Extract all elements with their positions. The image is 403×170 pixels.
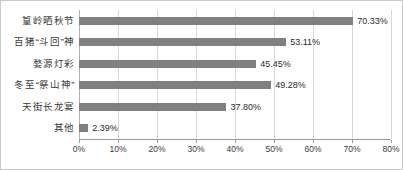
x-tick-mark [79,140,80,143]
x-tick-mark [352,140,353,143]
value-label: 45.45% [260,59,291,68]
value-label: 49.28% [275,81,306,90]
x-tick-label: 60% [304,145,321,154]
category-label: 百猪“斗回”神 [14,38,75,48]
bar [79,38,286,46]
category-label: 冬至“祭山神” [14,81,75,91]
bar-row: 天街长龙宴37.80% [79,96,391,118]
x-tick-label: 40% [226,145,243,154]
bar [79,103,226,111]
category-label: 天街长龙宴 [22,102,75,112]
x-tick-mark [235,140,236,143]
bar-chart: 篁岭晒秋节70.33%百猪“斗回”神53.11%婺源灯彩45.45%冬至“祭山神… [0,0,403,170]
bar-row: 其他2.39% [79,118,391,140]
x-axis: 0%10%20%30%40%50%60%70%80% [79,140,391,160]
x-tick-mark [196,140,197,143]
x-tick-label: 30% [187,145,204,154]
bar-row: 百猪“斗回”神53.11% [79,32,391,54]
x-tick-mark [157,140,158,143]
bar-row: 婺源灯彩45.45% [79,53,391,75]
bar-row: 冬至“祭山神”49.28% [79,75,391,97]
x-tick-label: 80% [382,145,399,154]
gridline-80% [391,10,392,139]
x-tick-label: 50% [265,145,282,154]
value-label: 37.80% [230,102,261,111]
bar [79,60,256,68]
bar-row: 篁岭晒秋节70.33% [79,10,391,32]
x-tick-mark [391,140,392,143]
category-label: 婺源灯彩 [33,59,75,69]
category-label: 其他 [54,124,75,134]
x-tick-mark [118,140,119,143]
bar [79,81,271,89]
x-tick-label: 20% [148,145,165,154]
value-label: 70.33% [357,16,388,25]
x-tick-mark [313,140,314,143]
bar [79,17,353,25]
plot-area: 篁岭晒秋节70.33%百猪“斗回”神53.11%婺源灯彩45.45%冬至“祭山神… [79,10,391,139]
x-tick-label: 0% [73,145,85,154]
category-label: 篁岭晒秋节 [22,16,75,26]
value-label: 53.11% [290,38,320,47]
x-tick-label: 70% [343,145,360,154]
bar [79,124,88,132]
x-tick-label: 10% [109,145,126,154]
value-label: 2.39% [92,124,118,133]
x-tick-mark [274,140,275,143]
